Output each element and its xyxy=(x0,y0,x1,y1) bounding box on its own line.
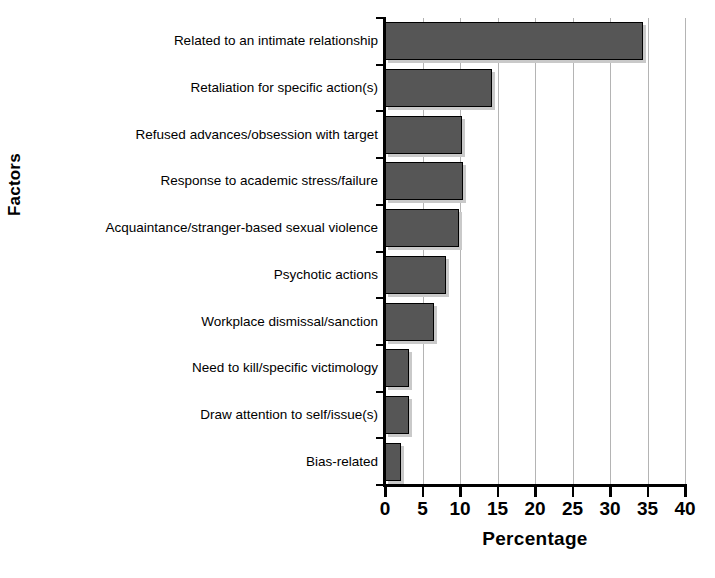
y-axis-tick xyxy=(376,391,384,393)
bar xyxy=(385,209,459,247)
category-label: Retaliation for specific action(s) xyxy=(40,80,378,96)
category-label: Draw attention to self/issue(s) xyxy=(40,407,378,423)
gridline xyxy=(535,18,536,485)
y-axis-tick xyxy=(376,204,384,206)
x-tick-label: 20 xyxy=(515,498,555,520)
plot-area xyxy=(385,18,685,485)
x-axis-tick xyxy=(459,486,462,497)
bar-fill xyxy=(385,349,409,387)
x-tick-label: 25 xyxy=(553,498,593,520)
bar xyxy=(385,256,446,294)
bar xyxy=(385,349,409,387)
x-axis-tick xyxy=(609,486,612,497)
x-axis-tick xyxy=(684,486,687,497)
x-tick-label: 30 xyxy=(590,498,630,520)
bar-fill xyxy=(385,162,463,200)
bar-fill xyxy=(385,443,401,481)
y-axis-tick xyxy=(376,17,384,19)
bar xyxy=(385,303,434,341)
bar-chart: Factors Related to an intimate relations… xyxy=(0,0,715,578)
bar xyxy=(385,396,409,434)
category-label: Acquaintance/stranger-based sexual viole… xyxy=(40,220,378,236)
category-label-list: Related to an intimate relationshipRetal… xyxy=(40,18,378,485)
y-axis-tick xyxy=(376,297,384,299)
y-axis-tick xyxy=(376,251,384,253)
bar-fill xyxy=(385,396,409,434)
category-label: Response to academic stress/failure xyxy=(40,173,378,189)
category-label: Bias-related xyxy=(40,454,378,470)
y-axis-title: Factors xyxy=(2,76,28,216)
category-label: Psychotic actions xyxy=(40,267,378,283)
category-label: Need to kill/specific victimology xyxy=(40,360,378,376)
gridline xyxy=(685,18,686,485)
y-axis-tick xyxy=(376,110,384,112)
gridline xyxy=(573,18,574,485)
y-axis-tick xyxy=(376,157,384,159)
bar-fill xyxy=(385,303,434,341)
bar xyxy=(385,116,462,154)
y-axis-tick xyxy=(376,344,384,346)
bar xyxy=(385,443,401,481)
y-axis-tick xyxy=(376,484,384,486)
x-tick-label: 15 xyxy=(478,498,518,520)
x-axis-tick xyxy=(384,486,387,497)
x-axis-title: Percentage xyxy=(385,528,685,550)
category-label: Related to an intimate relationship xyxy=(40,33,378,49)
bar-fill xyxy=(385,69,492,107)
category-label: Refused advances/obsession with target xyxy=(40,127,378,143)
x-tick-label: 40 xyxy=(665,498,705,520)
x-tick-label: 10 xyxy=(440,498,480,520)
bar xyxy=(385,162,463,200)
x-axis-tick xyxy=(422,486,425,497)
gridline xyxy=(498,18,499,485)
bar xyxy=(385,69,492,107)
x-axis-tick xyxy=(497,486,500,497)
bar-fill xyxy=(385,116,462,154)
bar-fill xyxy=(385,256,446,294)
gridline xyxy=(610,18,611,485)
x-tick-label: 35 xyxy=(628,498,668,520)
y-axis-tick xyxy=(376,437,384,439)
x-tick-label: 0 xyxy=(365,498,405,520)
x-axis-tick xyxy=(572,486,575,497)
x-tick-label: 5 xyxy=(403,498,443,520)
gridline xyxy=(648,18,649,485)
bar xyxy=(385,22,643,60)
x-axis-tick xyxy=(534,486,537,497)
category-label: Workplace dismissal/sanction xyxy=(40,314,378,330)
x-axis-tick xyxy=(647,486,650,497)
bar-fill xyxy=(385,22,643,60)
y-axis-tick xyxy=(376,64,384,66)
bar-fill xyxy=(385,209,459,247)
